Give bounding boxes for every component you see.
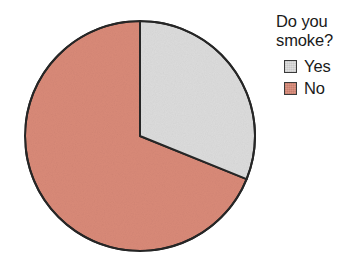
legend-title: Do you smoke?	[276, 12, 364, 50]
pie-chart: Do you smoke? Yes No	[0, 0, 364, 273]
legend-swatch-no	[284, 82, 297, 95]
legend: Do you smoke? Yes No	[276, 12, 364, 97]
legend-item-yes[interactable]: Yes	[276, 57, 364, 75]
legend-item-no[interactable]: No	[276, 79, 364, 97]
legend-label-yes: Yes	[304, 57, 331, 75]
legend-label-no: No	[304, 79, 325, 97]
legend-swatch-yes	[284, 60, 297, 73]
